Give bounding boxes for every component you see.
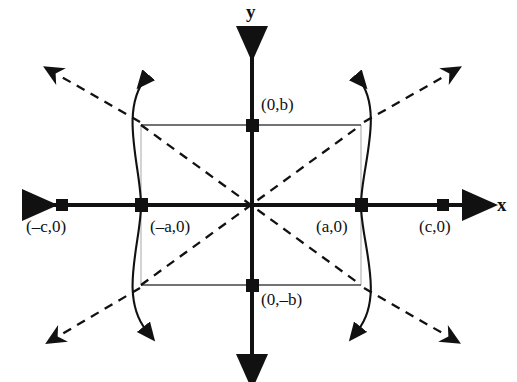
label-focus-left: (–c,0) [26,218,66,235]
marker-vertex-left[interactable] [135,198,148,212]
marker-covertex-bottom[interactable] [246,279,259,292]
label-covertex-bottom: (0,–b) [261,291,302,308]
label-vertex-left: (–a,0) [150,218,190,235]
hyperbola-diagram: (–c,0) (–a,0) (0,b) (0,–b) (a,0) (c,0) x… [0,0,517,382]
asymptote-upper-left-segment [60,76,140,122]
label-focus-right: (c,0) [419,218,451,235]
asymptote-lower-left-segment [62,288,140,334]
marker-vertex-right[interactable] [355,198,368,212]
asymptote-lower-right-segment [364,288,444,334]
y-axis-label: y [246,2,256,21]
marker-focus-left[interactable] [56,199,68,211]
asymptote-upper-right-segment [364,76,445,122]
label-vertex-right: (a,0) [316,218,348,235]
x-axis-label: x [497,195,507,214]
marker-covertex-top[interactable] [246,119,259,132]
hyperbola-canvas [0,0,517,382]
marker-focus-right[interactable] [437,199,449,211]
label-covertex-top: (0,b) [261,96,294,113]
